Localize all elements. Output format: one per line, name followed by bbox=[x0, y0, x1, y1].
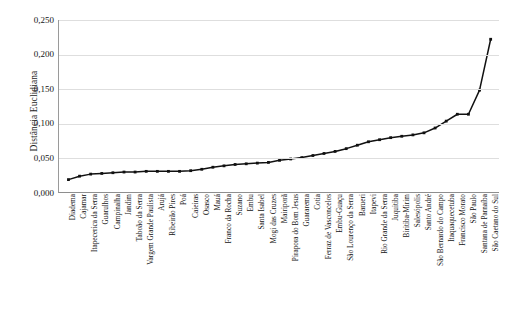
data-point-marker bbox=[323, 152, 326, 155]
x-tick-label: Arujá bbox=[159, 194, 166, 211]
y-tick-label: 0,250 bbox=[20, 16, 54, 25]
x-tick-label: Itapevi bbox=[371, 194, 378, 214]
data-series-line bbox=[59, 20, 499, 192]
gridline bbox=[59, 158, 499, 159]
data-point-marker bbox=[67, 178, 70, 181]
data-point-marker bbox=[411, 134, 414, 137]
data-point-marker bbox=[345, 147, 348, 150]
x-tick-label: Santo André bbox=[426, 194, 433, 230]
data-point-marker bbox=[489, 38, 492, 41]
x-tick-label: São Bernardo do Campo bbox=[438, 194, 445, 266]
data-point-marker bbox=[156, 170, 159, 173]
x-tick-label: Campinalha bbox=[115, 194, 122, 229]
x-tick-label: Jandim bbox=[126, 194, 133, 215]
x-tick-label: Vargem Grande Paulista bbox=[148, 194, 155, 265]
data-point-marker bbox=[311, 154, 314, 157]
x-tick-label: São Caetano do Sul bbox=[493, 194, 500, 251]
plot-area bbox=[58, 20, 499, 193]
data-point-marker bbox=[89, 173, 92, 176]
x-tick-label: Biritiba-Mirim bbox=[404, 194, 411, 237]
x-tick-label: Ribeirão Pires bbox=[170, 194, 177, 236]
gridline bbox=[59, 89, 499, 90]
y-axis-tick-labels: 0,0000,0500,1000,1500,2000,250 bbox=[14, 0, 54, 311]
data-point-marker bbox=[334, 150, 337, 153]
data-point-marker bbox=[145, 170, 148, 173]
x-tick-label: Guararema bbox=[304, 194, 311, 226]
data-point-marker bbox=[389, 136, 392, 139]
data-point-marker bbox=[245, 162, 248, 165]
x-tick-label: Juquitiba bbox=[393, 194, 400, 221]
x-tick-label: Embu bbox=[248, 194, 255, 211]
x-tick-label: Taboão da Serra bbox=[137, 194, 144, 241]
x-tick-label: Barueri bbox=[360, 194, 367, 216]
y-tick-label: 0,150 bbox=[20, 85, 54, 94]
data-point-marker bbox=[223, 164, 226, 167]
x-tick-label: Cotia bbox=[315, 194, 322, 210]
x-tick-label: Guarulhos bbox=[103, 194, 110, 224]
y-tick-label: 0,050 bbox=[20, 154, 54, 163]
data-point-marker bbox=[423, 131, 426, 134]
x-tick-label: Poá bbox=[181, 194, 188, 205]
y-tick-label: 0,000 bbox=[20, 189, 54, 198]
x-tick-label: Osasco bbox=[204, 194, 211, 215]
data-point-marker bbox=[100, 172, 103, 175]
x-tick-label: Diadema bbox=[70, 194, 77, 220]
x-tick-label: Ferraz de Vasconcelos bbox=[326, 194, 333, 259]
x-tick-label: Mogi das Cruzes bbox=[271, 194, 278, 243]
data-point-marker bbox=[123, 171, 126, 174]
x-axis-tick-labels: DiademaCajamarItapecerica da SerraGuarul… bbox=[58, 194, 499, 311]
x-tick-label: Francisco Morato bbox=[460, 194, 467, 246]
data-point-marker bbox=[178, 170, 181, 173]
data-point-marker bbox=[234, 163, 237, 166]
data-point-marker bbox=[367, 140, 370, 143]
data-point-marker bbox=[356, 144, 359, 147]
data-point-marker bbox=[78, 175, 81, 178]
gridline bbox=[59, 55, 499, 56]
x-tick-label: Cajamar bbox=[81, 194, 88, 219]
gridline bbox=[59, 20, 499, 21]
x-tick-label: São Lourenço da Serra bbox=[348, 194, 355, 261]
x-tick-label: Caieiras bbox=[193, 194, 200, 218]
data-point-marker bbox=[211, 166, 214, 169]
data-point-marker bbox=[445, 120, 448, 123]
x-tick-label: Franco da Rocha bbox=[226, 194, 233, 243]
data-point-marker bbox=[467, 113, 470, 116]
data-point-marker bbox=[378, 138, 381, 141]
x-tick-label: Rio Grande da Serra bbox=[382, 194, 389, 254]
x-tick-label: Mauá bbox=[215, 194, 222, 211]
data-point-marker bbox=[167, 170, 170, 173]
data-point-marker bbox=[267, 161, 270, 164]
data-point-marker bbox=[200, 168, 203, 171]
data-point-marker bbox=[256, 162, 259, 165]
x-tick-label: Santana de Parnaíba bbox=[482, 194, 489, 253]
x-tick-label: Itaquaquecetuba bbox=[449, 194, 456, 242]
x-tick-label: Pirapora do Bom Jesus bbox=[293, 194, 300, 261]
data-point-marker bbox=[400, 135, 403, 138]
gridline bbox=[59, 124, 499, 125]
x-tick-label: Salesópolis bbox=[415, 194, 422, 227]
x-tick-label: São Paulo bbox=[471, 194, 478, 223]
chart-container: Distância Euclidiana 0,0000,0500,1000,15… bbox=[0, 0, 507, 311]
x-tick-label: Embu-Guaçu bbox=[337, 194, 344, 233]
data-point-marker bbox=[434, 127, 437, 130]
data-point-marker bbox=[134, 171, 137, 174]
data-point-marker bbox=[189, 169, 192, 172]
x-tick-label: Itapecerica da Serra bbox=[92, 194, 99, 252]
data-point-marker bbox=[456, 113, 459, 116]
x-tick-label: Santa Isabel bbox=[259, 194, 266, 230]
y-tick-label: 0,200 bbox=[20, 50, 54, 59]
data-point-marker bbox=[111, 171, 114, 174]
x-tick-label: Suzano bbox=[237, 194, 244, 215]
y-tick-label: 0,100 bbox=[20, 119, 54, 128]
x-tick-label: Mairiporã bbox=[282, 194, 289, 223]
